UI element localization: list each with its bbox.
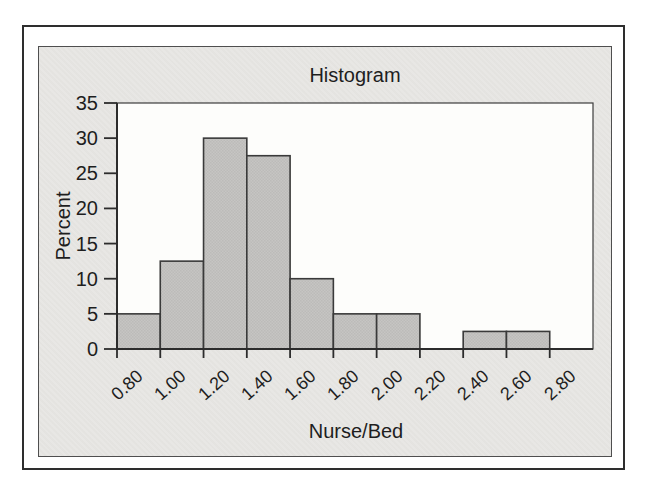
- scanned-page: Histogram Percent Nurse/Bed 051015202530…: [0, 0, 647, 491]
- histogram-bar: [247, 156, 290, 349]
- histogram-bar: [463, 331, 506, 349]
- histogram-bar: [506, 331, 549, 349]
- histogram-bar: [204, 138, 247, 349]
- y-axis-title: Percent: [51, 165, 75, 287]
- chart-title: Histogram: [117, 62, 593, 88]
- histogram-bar: [290, 279, 333, 349]
- x-axis-title: Nurse/Bed: [276, 419, 436, 443]
- histogram-bar: [117, 314, 160, 349]
- histogram-bar: [160, 261, 203, 349]
- histogram-bar: [333, 314, 376, 349]
- histogram-bar: [377, 314, 420, 349]
